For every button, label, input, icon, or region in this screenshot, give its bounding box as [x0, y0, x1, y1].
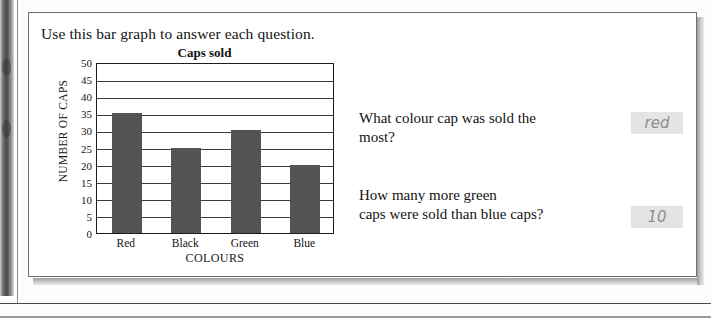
x-tick-label: Black: [172, 237, 199, 249]
y-tick-label: 25: [68, 143, 92, 155]
y-tick-label: 35: [68, 108, 92, 120]
card-drop-shadow-bottom: [33, 278, 702, 285]
chart-bar: [231, 130, 261, 233]
y-tick-label: 40: [68, 91, 92, 103]
y-tick-label: 0: [68, 228, 92, 240]
chart-bar: [171, 148, 201, 234]
question-1-answer[interactable]: red: [631, 112, 683, 134]
instruction-text: Use this bar graph to answer each questi…: [41, 25, 315, 43]
bar-chart: Caps sold NUMBER OF CAPS 051015202530354…: [37, 45, 342, 267]
question-1-text: What colour cap was sold the most?: [359, 109, 599, 147]
spine-artifact: [2, 120, 11, 138]
chart-bar: [290, 165, 320, 233]
y-tick-label: 5: [68, 211, 92, 223]
y-tick-label: 10: [68, 194, 92, 206]
spine-artifact: [2, 58, 11, 76]
x-tick-label: Red: [116, 237, 135, 249]
page-left-rule: [17, 0, 18, 304]
card-drop-shadow-right: [697, 17, 704, 285]
y-tick-label: 15: [68, 177, 92, 189]
book-spine-edge: [0, 0, 14, 296]
y-tick-label: 20: [68, 160, 92, 172]
chart-plot-area: [96, 63, 334, 234]
y-tick-label: 30: [68, 125, 92, 137]
worksheet-card: Use this bar graph to answer each questi…: [28, 12, 697, 277]
question-2-answer[interactable]: 10: [631, 206, 683, 228]
x-axis-label: COLOURS: [96, 251, 334, 266]
page-bottom-rule: [0, 303, 711, 304]
y-tick-label: 50: [68, 57, 92, 69]
y-tick-label: 45: [68, 74, 92, 86]
x-tick-label: Blue: [293, 237, 315, 249]
y-axis-ticks: 05101520253035404550: [64, 63, 92, 234]
chart-bar: [112, 113, 142, 233]
chart-gridline: [97, 98, 333, 99]
chart-gridline: [97, 81, 333, 82]
x-tick-label: Green: [231, 237, 259, 249]
question-2-text: How many more green caps were sold than …: [359, 186, 609, 224]
scanned-page: Use this bar graph to answer each questi…: [0, 0, 711, 318]
